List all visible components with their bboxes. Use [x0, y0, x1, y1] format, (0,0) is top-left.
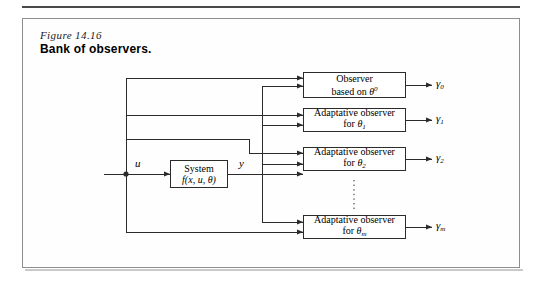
observer-0-line1: Observer	[336, 73, 373, 85]
observer-m-line1: Adaptative observer	[314, 214, 395, 226]
observer-m-line2: for θm	[342, 225, 366, 241]
observer-m-block[interactable]: Adaptative observer for θm	[303, 215, 406, 239]
observer-0-block[interactable]: Observer based on θ0	[303, 72, 406, 98]
output-label-gamma-m: γm	[436, 219, 445, 233]
output-label-gamma-1: γ1	[436, 112, 444, 126]
block-diagram	[0, 0, 544, 282]
signal-label-u: u	[135, 157, 141, 169]
observer-2-line2: for θ2	[343, 157, 366, 173]
observer-1-line1: Adaptative observer	[314, 107, 395, 119]
signal-label-y: y	[239, 157, 244, 169]
observer-1-line2: for θ1	[343, 118, 366, 134]
observer-0-line2: based on θ0	[331, 84, 377, 98]
system-block-line1: System	[184, 163, 213, 175]
output-label-gamma-0: γ0	[436, 77, 444, 91]
wire-u-to-observer-2	[126, 139, 303, 153]
observer-2-block[interactable]: Adaptative observer for θ2	[303, 147, 406, 171]
observer-1-block[interactable]: Adaptative observer for θ1	[303, 108, 406, 132]
figure-page: Figure 14.16 Bank of observers.	[0, 0, 544, 282]
output-label-gamma-2: γ2	[436, 151, 444, 165]
system-block-line2: f(x, u, θ)	[182, 174, 216, 186]
observer-2-line1: Adaptative observer	[314, 146, 395, 158]
system-block[interactable]: System f(x, u, θ)	[170, 160, 228, 188]
junction-dot-u	[123, 171, 128, 176]
